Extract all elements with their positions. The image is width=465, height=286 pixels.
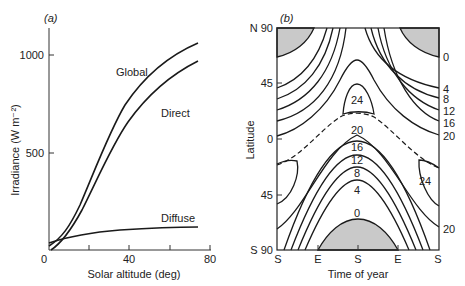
inner-label-8: 8 bbox=[354, 167, 360, 179]
shaded-region-north-left bbox=[277, 28, 314, 57]
y-axis-title-b: Latitude bbox=[244, 120, 256, 159]
right-label-20-lower: 20 bbox=[443, 223, 455, 235]
panel-a-label: (a) bbox=[44, 12, 58, 24]
inner-label-0: 0 bbox=[354, 207, 360, 219]
x-tick-label-0: 0 bbox=[41, 253, 47, 265]
right-label-16: 16 bbox=[443, 117, 455, 129]
y-label-45s: 45 bbox=[261, 189, 273, 201]
x-label-e1: E bbox=[314, 253, 321, 265]
label-global: Global bbox=[116, 66, 148, 78]
panel-b-contour-chart: (b) bbox=[244, 12, 455, 280]
right-label-12: 12 bbox=[443, 105, 455, 117]
panel-b-label: (b) bbox=[280, 12, 294, 24]
y-label-0: 0 bbox=[267, 133, 273, 145]
inner-label-12: 12 bbox=[351, 154, 363, 166]
label-direct: Direct bbox=[161, 107, 190, 119]
right-label-20: 20 bbox=[443, 130, 455, 142]
y-label-s90: S 90 bbox=[250, 244, 273, 256]
side-label-24: 24 bbox=[419, 175, 431, 187]
x-axis-title: Solar altitude (deg) bbox=[88, 268, 181, 280]
right-label-0: 0 bbox=[443, 51, 449, 63]
y-label-45n: 45 bbox=[261, 77, 273, 89]
figure: (a) 1000 500 0 40 80 Solar altitude (deg… bbox=[0, 0, 465, 286]
right-label-8: 8 bbox=[443, 93, 449, 105]
inner-label-20: 20 bbox=[351, 124, 363, 136]
x-axis-title-b: Time of year bbox=[328, 268, 389, 280]
y-axis-title: Irradiance (W m⁻²) bbox=[9, 104, 21, 196]
contour-24-left bbox=[277, 160, 298, 204]
x-label-e2: E bbox=[394, 253, 401, 265]
inner-label-4: 4 bbox=[354, 184, 360, 196]
x-label-s3: S bbox=[434, 253, 441, 265]
shaded-region-north-right bbox=[400, 28, 439, 57]
x-label-s2: S bbox=[354, 253, 361, 265]
y-label-n90: N 90 bbox=[250, 22, 273, 34]
diffuse-curve bbox=[49, 227, 198, 243]
inner-label-16: 16 bbox=[351, 141, 363, 153]
y-tick-label-1000: 1000 bbox=[20, 49, 44, 61]
x-tick-label-40: 40 bbox=[123, 253, 135, 265]
x-label-s1: S bbox=[274, 253, 281, 265]
label-diffuse: Diffuse bbox=[161, 212, 195, 224]
inner-label-24: 24 bbox=[351, 94, 363, 106]
panel-a-line-chart: (a) 1000 500 0 40 80 Solar altitude (deg… bbox=[9, 12, 216, 280]
x-tick-label-80: 80 bbox=[204, 253, 216, 265]
y-tick-label-500: 500 bbox=[26, 147, 44, 159]
